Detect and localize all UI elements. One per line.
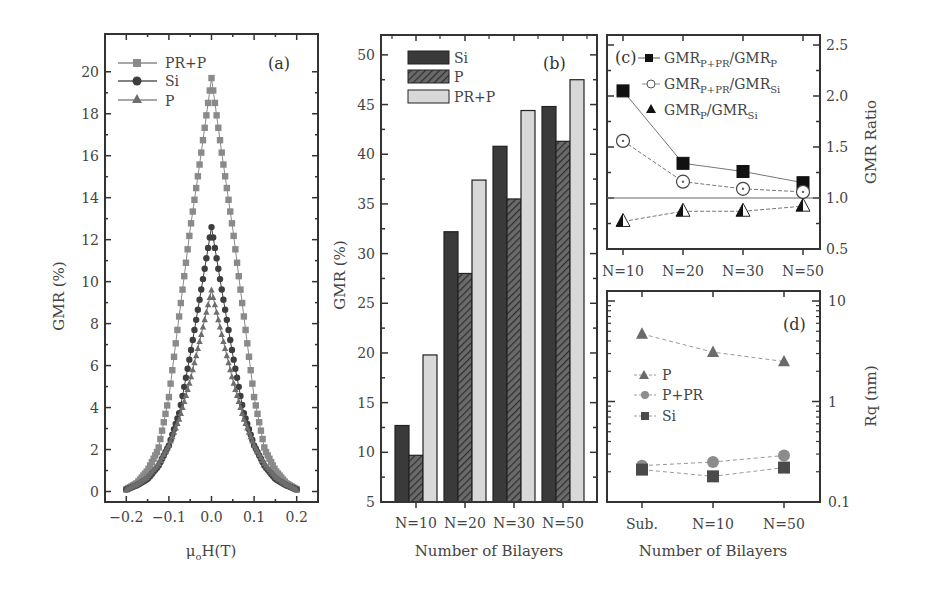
data-point-circle xyxy=(188,347,194,353)
data-point-square xyxy=(220,161,226,167)
data-point-square xyxy=(249,380,255,386)
y-tick-label: 8 xyxy=(90,316,99,332)
data-point-triangle xyxy=(220,338,226,344)
legend-open-circle-icon xyxy=(647,80,655,88)
panel-b-legend: Si P PR+P xyxy=(408,50,495,105)
panel-b-x-axis-title: Number of Bilayers xyxy=(415,542,564,560)
y-tick-label: 15 xyxy=(357,395,375,411)
data-point-square xyxy=(186,233,192,239)
data-point-square xyxy=(241,313,247,319)
data-point-square xyxy=(171,354,177,360)
data-point-square xyxy=(778,462,790,474)
panel-c-label: (c) xyxy=(615,48,636,67)
data-point-square xyxy=(737,165,749,177)
legend-label-pr-p: PR+P xyxy=(165,55,206,71)
data-point-triangle xyxy=(188,373,194,379)
legend-label-p-pr: P+PR xyxy=(662,387,704,403)
figure: 02468101214161820−0.2−0.10.00.10.2 PR+P … xyxy=(0,0,929,592)
y-tick-label: 35 xyxy=(357,196,375,212)
data-point-circle xyxy=(222,307,228,313)
y-tick-label: 1.0 xyxy=(826,190,848,206)
x-tick-label: N=50 xyxy=(542,515,584,531)
data-point-triangle xyxy=(217,323,223,329)
data-point-square xyxy=(232,246,238,252)
y-tick-label: 10 xyxy=(357,444,375,460)
y-tick-label: 18 xyxy=(81,106,99,122)
data-point-circle xyxy=(227,337,233,343)
data-point-square xyxy=(707,470,719,482)
data-point-triangle xyxy=(208,287,214,293)
data-point-square xyxy=(256,419,262,425)
panel-a-y-axis-title: GMR (%) xyxy=(50,261,68,330)
data-point-circle xyxy=(213,255,219,261)
data-point-square xyxy=(173,340,179,346)
y-tick-label: 0 xyxy=(90,484,99,500)
data-point-square xyxy=(200,137,206,143)
data-point-square xyxy=(195,173,201,179)
panel-d-series xyxy=(636,327,790,482)
panel-a-ticks: 02468101214161820−0.2−0.10.00.10.2 xyxy=(81,34,318,525)
data-point-circle xyxy=(183,375,189,381)
y-tick-label: 1 xyxy=(828,394,837,410)
data-point-square xyxy=(239,300,245,306)
legend-label-si: Si xyxy=(454,50,469,66)
y-tick-label: 5 xyxy=(366,494,375,510)
legend-triangle-marker-icon xyxy=(132,94,142,103)
data-point-triangle xyxy=(201,316,207,322)
data-point-circle xyxy=(225,327,231,333)
y-tick-label: 12 xyxy=(81,232,99,248)
x-tick-label: N=30 xyxy=(722,263,764,279)
data-point-square xyxy=(215,125,221,131)
y-tick-label: 2.0 xyxy=(826,88,848,104)
y-tick-label: 30 xyxy=(357,246,375,262)
data-point-square xyxy=(166,394,172,400)
panel-b-y-axis-title: GMR (%) xyxy=(331,240,349,309)
y-tick-label: 10 xyxy=(828,293,846,309)
bar-si xyxy=(444,232,458,502)
data-point-circle xyxy=(210,234,216,240)
bar-si xyxy=(395,425,409,502)
panel-a-curves xyxy=(123,75,300,493)
legend-ratio-1: GMRP+PR/GMRP xyxy=(664,50,777,69)
y-tick-label: 0.5 xyxy=(826,241,848,257)
data-point-circle xyxy=(230,356,236,362)
data-point-square xyxy=(183,260,189,266)
bar-p xyxy=(507,199,521,502)
legend-label-p: P xyxy=(454,69,463,85)
panel-b-bars xyxy=(395,80,584,502)
data-point-circle xyxy=(191,327,197,333)
data-point-square xyxy=(246,354,252,360)
data-point-triangle xyxy=(224,352,230,358)
circle-dot xyxy=(682,180,684,182)
legend-square-marker-icon xyxy=(641,412,649,420)
bar-pr-p xyxy=(521,111,535,502)
data-point-square xyxy=(677,157,689,169)
data-point-square xyxy=(178,300,184,306)
bar-p xyxy=(409,455,423,502)
x-tick-label: N=30 xyxy=(493,515,535,531)
y-tick-label: 0.1 xyxy=(828,494,850,510)
legend-label-p: P xyxy=(662,367,671,383)
data-point-square xyxy=(636,464,648,476)
y-tick-label: 4 xyxy=(90,400,99,416)
data-point-circle xyxy=(215,266,221,272)
x-tick-label: −0.1 xyxy=(152,509,186,525)
y-tick-label: 1.5 xyxy=(826,139,848,155)
data-point-circle xyxy=(205,245,211,251)
legend-square-marker-icon xyxy=(133,59,141,67)
legend-si-swatch xyxy=(408,51,449,64)
data-point-circle xyxy=(203,255,209,261)
data-point-triangle xyxy=(219,331,225,337)
data-point-triangle xyxy=(212,301,218,307)
x-tick-label: N=10 xyxy=(602,263,644,279)
panel-d-ticks: 0.1110Sub.N=10N=50 xyxy=(607,291,850,532)
y-tick-label: 40 xyxy=(357,146,375,162)
data-point-square xyxy=(155,444,161,450)
series-line xyxy=(623,141,803,192)
x-tick-label: N=20 xyxy=(444,515,486,531)
y-tick-label: 45 xyxy=(357,97,375,113)
data-point-square xyxy=(176,313,182,319)
data-point-square xyxy=(219,149,225,155)
y-tick-label: 6 xyxy=(90,358,99,374)
data-point-square xyxy=(212,100,218,106)
